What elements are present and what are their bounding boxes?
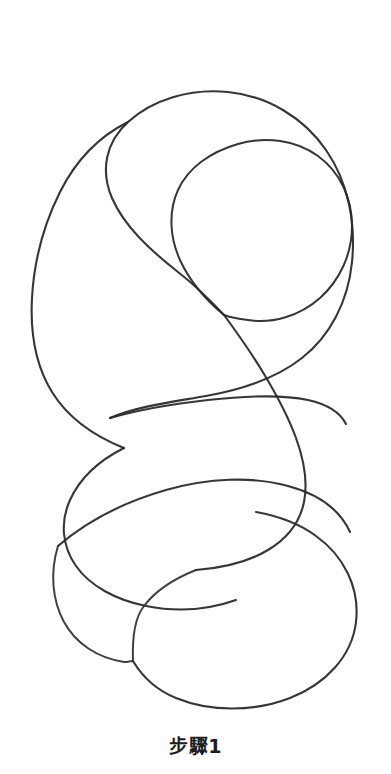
outer-coil-upper xyxy=(106,91,353,418)
mid-loop-lower-left xyxy=(64,448,236,609)
outer-coil-left-descender xyxy=(32,122,128,448)
drawing-canvas xyxy=(0,0,391,720)
ink-layer xyxy=(32,91,357,708)
mid-sweep-right xyxy=(196,315,306,570)
bottom-tail xyxy=(133,570,196,661)
bottom-loop-right xyxy=(133,512,357,709)
caption-area: 步驟1 xyxy=(0,718,391,774)
bottom-loop-left xyxy=(53,546,133,662)
step-caption-label: 步驟1 xyxy=(169,737,222,756)
inner-loop xyxy=(171,140,352,321)
illustration-page: 步驟1 xyxy=(0,0,391,774)
mid-band-left xyxy=(110,396,346,424)
hand-drawn-coil-sketch xyxy=(0,0,391,720)
